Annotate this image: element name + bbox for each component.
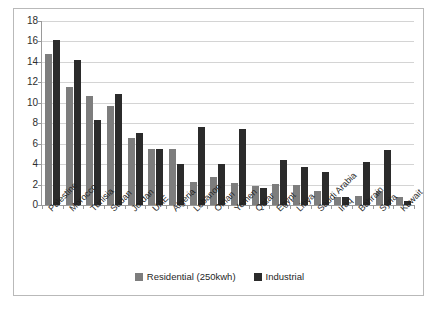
bar-group	[42, 21, 63, 205]
y-axis-tick-label: 2	[32, 180, 38, 190]
y-axis-tick-label: 0	[32, 200, 38, 210]
bar-group	[269, 21, 290, 205]
bar-group	[228, 21, 249, 205]
bar-group	[63, 21, 84, 205]
bar-group	[125, 21, 146, 205]
bar-group	[249, 21, 270, 205]
bar-group	[145, 21, 166, 205]
legend-label: Residential (250kwh)	[147, 271, 236, 282]
y-axis-tick-label: 10	[27, 98, 38, 108]
chart-legend: Residential (250kwh)Industrial	[14, 271, 425, 282]
y-axis: 024681012141618	[14, 21, 38, 205]
legend-item: Residential (250kwh)	[135, 271, 236, 282]
x-axis-tick	[414, 205, 415, 209]
chart-plot-wrapper: 024681012141618 PalestineMoroccoTunisiaS…	[14, 9, 425, 297]
bar	[115, 94, 122, 205]
bar-group	[393, 21, 414, 205]
legend-swatch-icon	[135, 273, 143, 281]
y-axis-tick	[38, 205, 42, 206]
y-axis-tick-label: 8	[32, 118, 38, 128]
bar-group	[311, 21, 332, 205]
chart-container: 024681012141618 PalestineMoroccoTunisiaS…	[13, 8, 424, 296]
bar	[169, 149, 176, 205]
bar-group	[290, 21, 311, 205]
bar	[53, 40, 60, 205]
legend-item: Industrial	[254, 271, 305, 282]
bar-group	[83, 21, 104, 205]
bar-group	[104, 21, 125, 205]
bar-group	[187, 21, 208, 205]
bar	[45, 54, 52, 205]
legend-label: Industrial	[266, 271, 305, 282]
y-axis-tick-label: 12	[27, 77, 38, 87]
plot-area	[41, 21, 414, 206]
bar-group	[166, 21, 187, 205]
bar-group	[207, 21, 228, 205]
bar-group	[373, 21, 394, 205]
legend-swatch-icon	[254, 273, 262, 281]
y-axis-tick-label: 16	[27, 36, 38, 46]
y-axis-tick-label: 6	[32, 139, 38, 149]
x-axis: PalestineMoroccoTunisiaSudanJordanUAEAlg…	[41, 207, 413, 269]
y-axis-tick-label: 18	[27, 16, 38, 26]
y-axis-tick-label: 4	[32, 159, 38, 169]
y-axis-tick-label: 14	[27, 57, 38, 67]
